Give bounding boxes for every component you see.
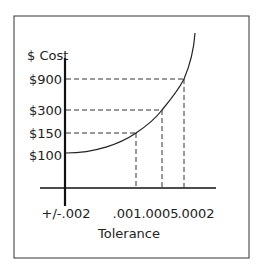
x-tick-002: +/-.002 [42, 206, 91, 221]
cost-curve [66, 33, 195, 153]
x-tick-001: .001 [113, 206, 142, 221]
x-tick-0005: .0005 [141, 206, 178, 221]
y-tick-150: $150 [29, 126, 62, 141]
y-tick-300: $300 [29, 103, 62, 118]
reference-lines [66, 79, 184, 188]
x-tick-0002: .0002 [177, 206, 214, 221]
x-axis-title: Tolerance [97, 226, 160, 241]
y-tick-100: $100 [29, 148, 62, 163]
tolerance-cost-chart: $ Cost $900 $300 $150 $100 +/-.002 .001 … [0, 0, 262, 269]
y-tick-900: $900 [29, 72, 62, 87]
y-axis-title: $ Cost [27, 48, 68, 63]
